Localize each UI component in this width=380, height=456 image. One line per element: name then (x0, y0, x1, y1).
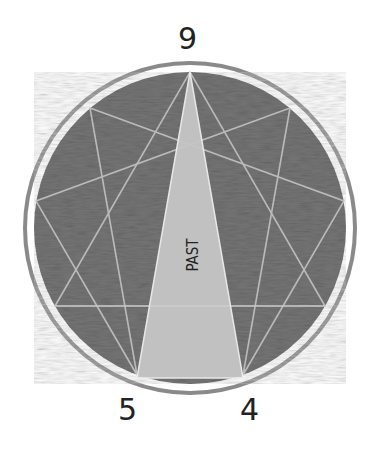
point-label-5: 5 (118, 395, 137, 425)
enneagram-diagram (0, 0, 380, 456)
point-label-9: 9 (178, 24, 197, 54)
point-label-4: 4 (240, 395, 259, 425)
past-label: PAST (184, 238, 202, 271)
